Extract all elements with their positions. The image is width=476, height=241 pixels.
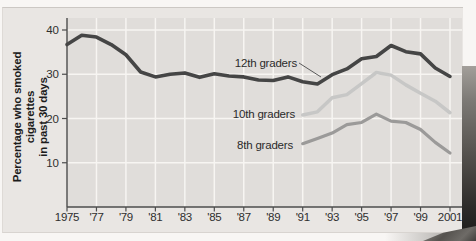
series-label-12th-graders: 12th graders [210, 57, 297, 69]
x-tick-label: '83 [178, 211, 192, 223]
figure-smoking-trends: 1975'77'79'81'83'85'87'89'91'93'95'97'99… [0, 0, 476, 241]
x-tick-label: '77 [89, 211, 103, 223]
y-axis-title-line2: in past 30 days [37, 32, 50, 202]
series-label-10th-graders: 10th graders [210, 108, 295, 120]
x-tick-label: '85 [207, 211, 221, 223]
page-edge-shadow [462, 66, 476, 241]
x-tick-label: '91 [296, 211, 310, 223]
x-tick-label: '95 [355, 211, 369, 223]
x-tick-label: '87 [237, 211, 251, 223]
x-tick-label: '79 [119, 211, 133, 223]
x-tick-label: 1975 [55, 211, 79, 223]
x-tick-label: '89 [266, 211, 280, 223]
x-tick-label: 2001 [438, 211, 462, 223]
y-axis-title-line1: Percentage who smoked cigarettes [11, 32, 37, 202]
x-tick-label: '93 [325, 211, 339, 223]
x-tick-label: '97 [384, 211, 398, 223]
line-chart: 1975'77'79'81'83'85'87'89'91'93'95'97'99… [0, 0, 476, 241]
y-axis-title: Percentage who smoked cigarettes in past… [11, 32, 37, 202]
x-tick-label: '99 [413, 211, 427, 223]
series-label-8th-graders: 8th graders [210, 139, 293, 151]
x-tick-label: '81 [148, 211, 162, 223]
